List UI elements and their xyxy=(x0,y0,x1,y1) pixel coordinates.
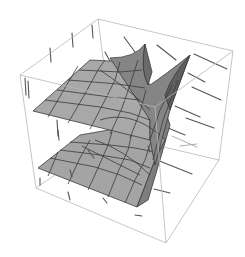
3d-plot xyxy=(0,0,245,257)
